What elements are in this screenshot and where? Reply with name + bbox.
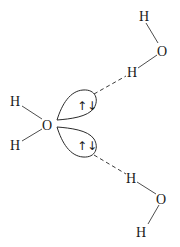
bond-upper-h-top-o xyxy=(146,23,158,43)
lower-hydrogen-bridge: H xyxy=(126,171,136,186)
bond-upper-o-h-bridge xyxy=(138,55,157,68)
upper-oxygen: O xyxy=(157,44,167,59)
bond-o-h-lower-left xyxy=(22,129,42,141)
bond-o-h-upper-left xyxy=(22,106,42,119)
central-hydrogen-upper: H xyxy=(10,94,20,109)
lone-pair-arrows-upper: ↑↓ xyxy=(77,99,97,113)
upper-hydrogen-top: H xyxy=(139,9,149,24)
lower-water-molecule: H O H xyxy=(126,171,166,240)
lone-pair-arrows-lower: ↑↓ xyxy=(77,139,97,153)
bond-lower-o-h-bottom xyxy=(148,205,159,224)
central-water-molecule: H O H ↑↓ ↑↓ xyxy=(10,90,97,157)
upper-water-molecule: H O H xyxy=(127,9,167,80)
lower-hydrogen-bottom: H xyxy=(136,225,146,240)
upper-hydrogen-bridge: H xyxy=(127,65,137,80)
hydrogen-bond-diagram: H O H ↑↓ ↑↓ H O H H O H xyxy=(0,0,180,247)
hydrogen-bond-lower xyxy=(94,155,126,174)
central-hydrogen-lower: H xyxy=(10,138,20,153)
lower-oxygen: O xyxy=(156,192,166,207)
bond-lower-h-bridge-o xyxy=(137,182,156,194)
hydrogen-bond-upper xyxy=(94,76,126,94)
central-oxygen: O xyxy=(42,118,52,133)
